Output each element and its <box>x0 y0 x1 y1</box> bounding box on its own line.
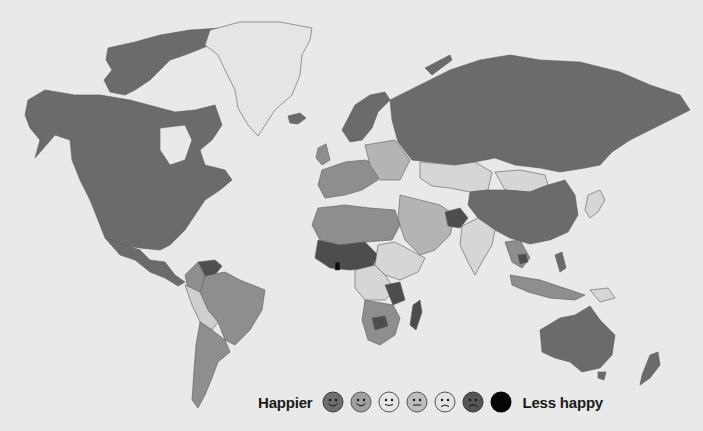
region-india <box>460 218 495 275</box>
region-new-zealand <box>640 352 660 385</box>
world-map <box>0 0 703 431</box>
region-australia <box>540 306 615 372</box>
region-kazakhstan <box>420 162 492 192</box>
region-west-africa <box>315 240 378 270</box>
region-north-africa <box>312 205 400 245</box>
region-philippines <box>555 252 566 272</box>
region-north-america <box>25 90 232 250</box>
legend-label-less-happy: Less happy <box>522 394 603 411</box>
smile-face-icon <box>322 391 344 413</box>
region-iceland <box>288 113 306 124</box>
frown-face-icon <box>434 391 456 413</box>
region-uk <box>316 144 330 165</box>
region-madagascar <box>410 300 422 330</box>
smile-face-icon <box>350 391 372 413</box>
region-papua <box>590 288 615 302</box>
region-cambodia <box>518 254 528 264</box>
slight-smile-face-icon <box>378 391 400 413</box>
region-tasmania <box>598 372 606 380</box>
frown-face-icon <box>462 391 484 413</box>
region-scandinavia <box>342 92 390 142</box>
legend-label-happier: Happier <box>258 394 312 411</box>
legend: Happier Less happy <box>258 389 603 415</box>
region-japan <box>585 190 605 218</box>
region-arctic-islands <box>104 28 222 95</box>
region-middle-east <box>398 195 455 255</box>
region-burkina <box>335 262 340 270</box>
blank-circle-icon <box>490 391 512 413</box>
neutral-face-icon <box>406 391 428 413</box>
region-indonesia <box>510 275 585 300</box>
